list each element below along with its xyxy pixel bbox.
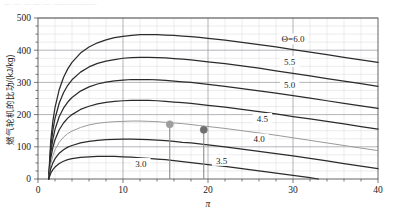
y-tick-label: 400 (17, 46, 32, 56)
y-axis-title: 燃气轮机的比功/(kJ/kg) (5, 54, 15, 145)
curve-theta-4.0 (49, 121, 378, 179)
y-tick-label: 200 (17, 110, 32, 120)
curve-label-theta-3.0: 3.0 (135, 159, 147, 169)
x-tick-label: 0 (36, 185, 41, 195)
y-tick-label: 500 (17, 13, 32, 23)
y-tick-label: 0 (26, 174, 31, 184)
x-tick-label: 40 (373, 185, 383, 195)
curve-label-theta-4.5: 4.5 (257, 114, 269, 124)
curve-label-theta-4.0: 4.0 (253, 134, 265, 144)
curve-label-theta-5.5: 5.5 (284, 57, 296, 67)
specific-work-vs-pressure-ratio-chart: 010203040 0100200300400500 Θ=6.05.55.04.… (0, 0, 398, 223)
data-point-markers (166, 121, 207, 179)
x-tick-label: 10 (118, 185, 128, 195)
cropped-header-text: — — — — — —————— (4, 0, 204, 8)
x-axis-tick-labels: 010203040 (36, 185, 383, 195)
x-axis-title: π (206, 199, 211, 209)
y-tick-label: 300 (17, 78, 32, 88)
figure-container: — — — — — —————— 010203040 0100200300400… (0, 0, 398, 223)
curve-label-theta-6.0: Θ=6.0 (282, 34, 305, 44)
y-axis-tick-labels: 0100200300400500 (17, 13, 32, 184)
marker-a (166, 121, 173, 128)
curve-label-theta-5.0: 5.0 (284, 80, 296, 90)
x-tick-label: 30 (288, 185, 298, 195)
marker-b (200, 126, 207, 133)
curve-label-theta-3.5: 3.5 (216, 156, 228, 166)
x-tick-label: 20 (203, 185, 213, 195)
y-tick-label: 100 (17, 142, 32, 152)
